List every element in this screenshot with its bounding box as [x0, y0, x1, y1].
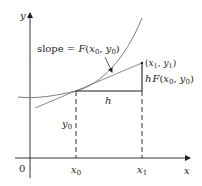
y-axis-label: y: [19, 10, 26, 21]
slope-pointer-arrow: [105, 57, 112, 72]
x-axis-label: x: [184, 165, 190, 176]
euler-method-diagram: y x 0 x0 x1 slope = F(x0, y0) (x1, y1) h…: [0, 0, 202, 186]
solution-curve: [18, 18, 142, 98]
origin-label: 0: [19, 163, 25, 174]
run-label: h: [105, 95, 111, 106]
x1-tick-label: x1: [137, 164, 147, 177]
point1-label: (x1, y1): [145, 58, 176, 70]
y0-label: y0: [61, 118, 72, 131]
point-x1-y1: [141, 62, 143, 64]
tangent-line: [35, 63, 142, 108]
rise-label: hF(x0, y0): [145, 73, 194, 86]
x0-tick-label: x0: [71, 164, 81, 177]
slope-label: slope = F(x0, y0): [37, 43, 120, 56]
